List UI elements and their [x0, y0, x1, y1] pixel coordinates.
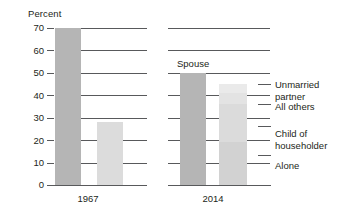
y-tick-mark-30 [47, 118, 54, 119]
y-tick-mark-60 [47, 50, 54, 51]
bar-2014-stacked [219, 84, 247, 185]
stack-segment-unmarried-partner [219, 84, 247, 93]
x-axis-baseline-1967 [47, 185, 147, 186]
y-tick-mark-20 [47, 140, 54, 141]
x-axis-label-2014: 2014 [193, 193, 233, 204]
category-label-unmarried-partner: Unmarried partner [275, 79, 319, 102]
leader-line-child-of-householder [258, 126, 271, 127]
leader-line-alone [258, 155, 271, 156]
category-label-alone: Alone [275, 160, 299, 172]
y-tick-label-10: 10 [22, 157, 44, 168]
gridline-60-right [168, 50, 270, 51]
y-tick-mark-70 [47, 28, 54, 29]
y-tick-label-70: 70 [22, 22, 44, 33]
bar-1967-others [97, 122, 123, 185]
y-tick-label-40: 40 [22, 90, 44, 101]
stack-segment-all-others [219, 93, 247, 104]
y-tick-label-0: 0 [22, 179, 44, 190]
bar-2014-spouse [180, 73, 206, 185]
gridline-70-right [168, 28, 270, 29]
annotation-spouse: Spouse [177, 58, 209, 69]
y-tick-mark-10 [47, 163, 54, 164]
stack-segment-child-of-householder [219, 104, 247, 142]
y-tick-label-60: 60 [22, 45, 44, 56]
y-tick-label-20: 20 [22, 135, 44, 146]
bar-1967-spouse [55, 28, 81, 185]
leader-line-baseline [258, 185, 271, 186]
leader-line-unmarried-partner [258, 84, 271, 85]
stack-segment-alone [219, 142, 247, 185]
category-label-all-others: All others [275, 101, 315, 113]
y-tick-mark-50 [47, 73, 54, 74]
y-tick-label-30: 30 [22, 112, 44, 123]
category-label-child-of-householder: Child of householder [275, 128, 327, 151]
y-axis-title: Percent [28, 8, 61, 19]
x-axis-baseline-2014 [168, 185, 270, 186]
y-tick-mark-40 [47, 95, 54, 96]
y-tick-label-50: 50 [22, 67, 44, 78]
chart-container: Percent 70 60 50 40 30 20 10 0 [0, 0, 348, 219]
leader-line-all-others [258, 104, 271, 105]
x-axis-label-1967: 1967 [68, 193, 108, 204]
